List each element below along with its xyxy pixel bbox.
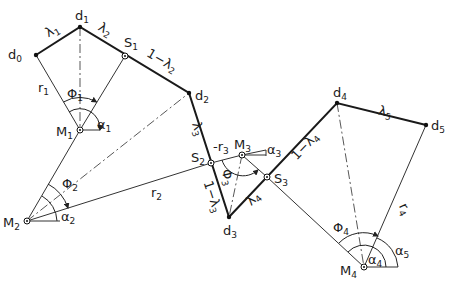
label-r4: r4 [394,201,414,218]
label-one-minus-lambda2: 1−λ2 [143,45,180,76]
label-M3: M3 [234,137,251,154]
label-M4: M4 [340,263,357,280]
label-alpha4: α4 [368,252,383,269]
label-lambda3: λ3 [187,120,207,138]
label-d0: d0 [8,47,22,64]
label-r2: r2 [151,185,162,202]
label-phi1: Φ1 [67,86,83,103]
label-alpha3: α3 [267,142,281,159]
label-alpha2: α2 [61,209,75,226]
label-d1: d1 [75,8,89,25]
label-r1: r1 [38,80,49,97]
segment-labels: λ1 λ2 1−λ2 λ3 1−λ3 λ4 1−λ4 λ5 [42,19,393,215]
label-d2: d2 [195,88,209,105]
label-d3: d3 [223,223,237,240]
label-M2: M2 [3,215,20,232]
label-M1: M1 [56,124,73,141]
label-S2: S2 [191,150,205,167]
label-phi3: Φ3 [217,167,238,187]
vertex-dots [34,25,428,219]
label-phi4: Φ4 [333,220,349,237]
label-alpha5: α5 [395,243,409,260]
label-lambda1: λ1 [42,20,62,41]
label-lambda5: λ5 [377,103,394,123]
arc-chain-diagram: d0 d1 S1 d2 S2 d3 S3 d4 d5 M1 M2 M3 M4 λ… [0,0,454,288]
label-one-minus-lambda4: 1−λ4 [288,129,323,165]
label-r3: -r3 [213,139,229,156]
label-alpha1: α1 [97,117,111,134]
polyline-d0-d5 [36,27,426,217]
label-d4: d4 [333,85,347,102]
label-S1: S1 [124,35,138,52]
label-S3: S3 [274,171,288,188]
angle-labels: Φ1 α1 Φ2 α2 Φ3 α3 Φ4 α4 α5 [61,86,409,269]
label-phi2: Φ2 [62,176,78,193]
label-d5: d5 [431,118,445,135]
